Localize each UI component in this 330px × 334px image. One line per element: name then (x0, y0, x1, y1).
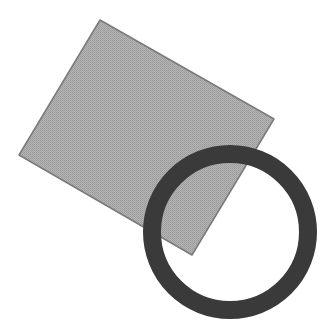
diagram-canvas (0, 0, 330, 334)
